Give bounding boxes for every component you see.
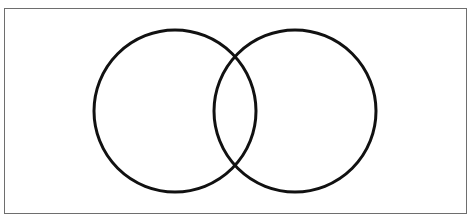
venn-circle-right (214, 30, 376, 192)
venn-diagram (0, 0, 472, 218)
venn-circle-left (94, 30, 256, 192)
